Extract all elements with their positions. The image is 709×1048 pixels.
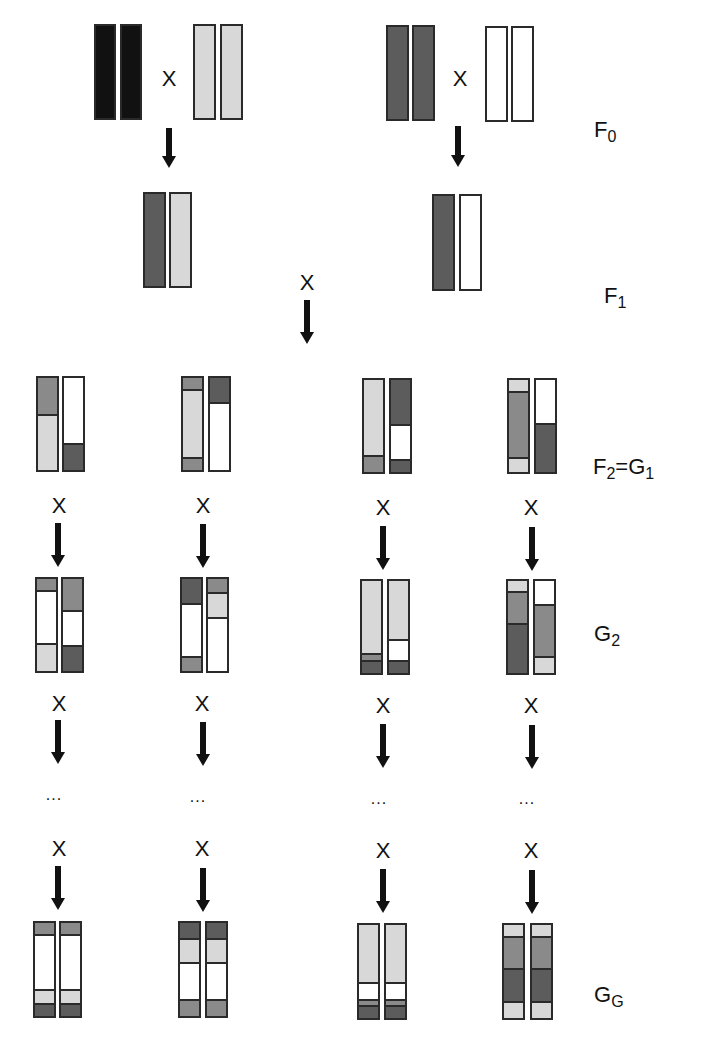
- chromosome-segment: [532, 925, 551, 936]
- chromosome-segment: [210, 378, 229, 402]
- chromosome-g1-1b: [62, 376, 85, 472]
- cross-symbol: X: [47, 838, 71, 860]
- generation-label-f0: F0: [594, 118, 616, 149]
- chromosome-segment: [461, 196, 480, 289]
- arrow-head: [196, 556, 210, 568]
- chromosome-segment: [364, 380, 383, 455]
- down-arrow-icon: [451, 126, 465, 167]
- down-arrow-icon: [300, 300, 314, 344]
- down-arrow-icon: [196, 722, 210, 766]
- chromosome-segment: [208, 579, 227, 592]
- chromosome-segment: [182, 579, 201, 603]
- chromosome-gg-2a: [178, 921, 201, 1018]
- chromosome-segment: [38, 414, 57, 470]
- chromosome-segment: [61, 923, 80, 934]
- generation-label-g2: G2: [594, 622, 620, 653]
- chromosome-f1-a2: [169, 192, 192, 288]
- chromosome-segment: [509, 380, 528, 391]
- down-arrow-icon: [376, 869, 390, 913]
- arrow-shaft: [380, 526, 386, 559]
- chromosome-gg-1a: [33, 921, 56, 1018]
- arrow-head: [196, 754, 210, 766]
- arrow-shaft: [529, 527, 535, 560]
- ellipsis-continuation: ...: [364, 790, 394, 808]
- chromosome-segment: [183, 389, 202, 456]
- chromosome-segment: [195, 26, 214, 118]
- chromosome-g2-4a: [506, 579, 529, 675]
- arrow-shaft: [200, 524, 206, 557]
- down-arrow-icon: [196, 524, 210, 568]
- down-arrow-icon: [51, 720, 65, 764]
- arrow-shaft: [304, 300, 310, 333]
- chromosome-gg-4a: [502, 923, 525, 1020]
- chromosome-gg-4b: [530, 923, 553, 1020]
- chromosome-segment: [37, 590, 56, 643]
- chromosome-segment: [207, 923, 226, 938]
- cross-symbol: X: [371, 497, 395, 519]
- chromosome-segment: [389, 639, 408, 660]
- chromosome-segment: [391, 380, 410, 424]
- chromosome-segment: [96, 26, 114, 118]
- chromosome-segment: [386, 925, 405, 982]
- down-arrow-icon: [162, 128, 176, 168]
- chromosome-segment: [35, 923, 54, 934]
- cross-symbol: X: [190, 693, 214, 715]
- chromosome-segment: [208, 592, 227, 617]
- chromosome-segment: [364, 455, 383, 472]
- arrow-shaft: [200, 868, 206, 901]
- chromosome-segment: [37, 579, 56, 590]
- cross-symbol: X: [47, 693, 71, 715]
- chromosome-segment: [207, 938, 226, 962]
- chromosome-segment: [389, 581, 408, 639]
- chromosome-segment: [64, 378, 83, 443]
- chromosome-segment: [504, 936, 523, 968]
- chromosome-segment: [535, 604, 554, 656]
- chromosome-segment: [536, 423, 555, 472]
- chromosome-g2-1b: [61, 577, 84, 673]
- arrow-shaft: [380, 724, 386, 757]
- down-arrow-icon: [51, 523, 65, 567]
- chromosome-gg-2b: [205, 921, 228, 1018]
- chromosome-segment: [391, 424, 410, 459]
- arrow-head: [451, 155, 465, 167]
- cross-symbol: X: [190, 838, 214, 860]
- down-arrow-icon: [51, 866, 65, 910]
- chromosome-f0-c2: [412, 25, 435, 121]
- chromosome-segment: [61, 934, 80, 988]
- chromosome-segment: [61, 1003, 80, 1016]
- chromosome-segment: [63, 610, 82, 645]
- chromosome-g1-4b: [534, 378, 557, 474]
- chromosome-segment: [210, 402, 229, 470]
- arrow-shaft: [529, 725, 535, 758]
- chromosome-segment: [532, 968, 551, 1001]
- chromosome-segment: [35, 934, 54, 988]
- chromosome-segment: [414, 27, 433, 119]
- arrow-shaft: [529, 870, 535, 903]
- chromosome-f0-d2: [511, 26, 534, 122]
- chromosome-segment: [359, 925, 378, 982]
- down-arrow-icon: [376, 724, 390, 768]
- chromosome-segment: [536, 380, 555, 423]
- ellipsis-continuation: ...: [512, 790, 542, 808]
- chromosome-segment: [386, 982, 405, 999]
- chromosome-segment: [145, 194, 164, 286]
- chromosome-segment: [388, 27, 407, 119]
- chromosome-segment: [207, 962, 226, 1000]
- chromosome-segment: [487, 28, 506, 120]
- chromosome-f1-b2: [459, 194, 482, 291]
- cross-symbol: X: [295, 272, 319, 294]
- chromosome-g2-1a: [35, 577, 58, 673]
- chromosome-segment: [207, 999, 226, 1016]
- chromosome-g2-2a: [180, 577, 203, 673]
- down-arrow-icon: [525, 870, 539, 914]
- arrow-head: [196, 900, 210, 912]
- chromosome-segment: [122, 26, 140, 118]
- arrow-head: [51, 752, 65, 764]
- chromosome-g1-1a: [36, 376, 59, 472]
- cross-symbol: X: [371, 695, 395, 717]
- cross-symbol: X: [47, 495, 71, 517]
- chromosome-segment: [359, 1005, 378, 1018]
- chromosome-gg-3b: [384, 923, 407, 1020]
- cross-symbol: X: [191, 495, 215, 517]
- chromosome-segment: [180, 938, 199, 962]
